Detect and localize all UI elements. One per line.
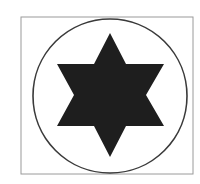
- figure: [0, 0, 200, 184]
- star-in-circle-diagram: [0, 0, 200, 184]
- six-pointed-star-icon: [57, 33, 164, 157]
